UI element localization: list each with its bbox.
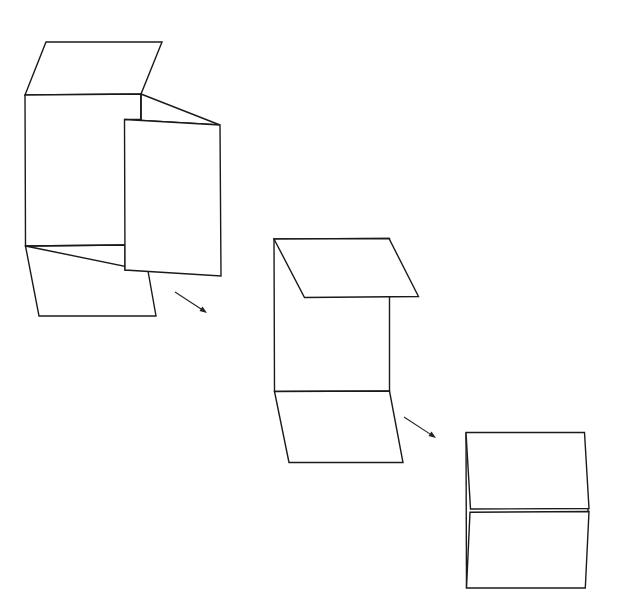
step-1-figure: [25, 42, 221, 316]
step-1-crease: [26, 245, 126, 246]
step-3-left-spine: [466, 433, 467, 589]
step-1-right-panel: [125, 120, 222, 277]
step-1-main-panel: [25, 94, 141, 270]
step-2-figure: [274, 239, 419, 463]
step-3-figure: [466, 433, 589, 589]
step-1-top-flap: [25, 42, 162, 95]
folding-diagram: [0, 0, 623, 615]
step-2-bottom-flap: [275, 391, 404, 463]
arrow-1: [175, 292, 207, 313]
step-3-lower-panel: [467, 512, 590, 589]
arrow-2: [404, 417, 436, 438]
step-3-upper-panel: [466, 433, 589, 510]
